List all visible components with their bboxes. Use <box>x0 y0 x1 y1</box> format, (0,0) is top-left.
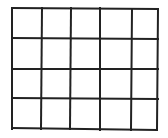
grid-horizontal-line <box>12 8 158 9</box>
grid-horizontal-line <box>12 38 158 39</box>
grid-horizontal-line <box>12 98 158 99</box>
grid-diagram <box>0 0 168 138</box>
grid-horizontal-line <box>12 128 157 130</box>
